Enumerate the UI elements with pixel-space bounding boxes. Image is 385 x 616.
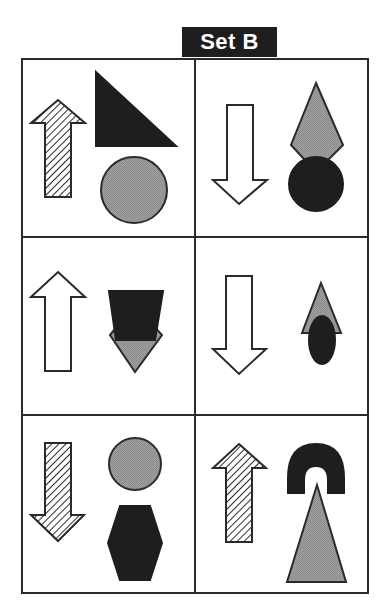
black-circle-icon (289, 157, 343, 211)
black-trapezoid-icon (109, 291, 163, 340)
cell-row3-col2 (213, 444, 346, 582)
hatched-up-arrow-icon (213, 444, 266, 542)
cell-row3-col1 (31, 438, 162, 580)
black-ellipse-icon (309, 316, 335, 364)
black-hexagon-icon (108, 506, 162, 580)
cell-row2-col1 (31, 272, 163, 372)
gray-circle-icon (109, 438, 161, 490)
cell-row1-col1 (31, 72, 176, 223)
gray-circle-icon (101, 157, 167, 223)
white-down-arrow-icon (213, 276, 266, 374)
figure-grid (0, 0, 385, 616)
hatched-up-arrow-icon (31, 100, 85, 197)
white-up-arrow-icon (31, 272, 85, 371)
white-down-arrow-icon (213, 105, 267, 204)
black-right-triangle-icon (96, 72, 176, 146)
gray-triangle-icon (287, 485, 346, 582)
hatched-down-arrow-icon (31, 443, 84, 541)
cell-row2-col2 (213, 276, 341, 374)
cell-row1-col2 (213, 83, 343, 211)
